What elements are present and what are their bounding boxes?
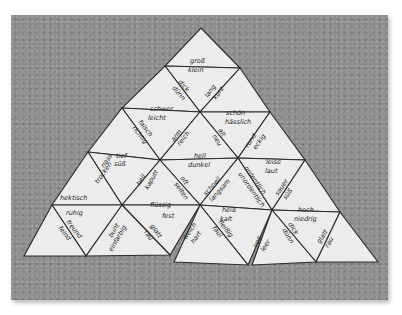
word-label: heiß xyxy=(222,206,236,214)
word-label: hässlich xyxy=(225,118,251,126)
word-label: laut xyxy=(265,167,278,175)
word-label: schön xyxy=(226,109,245,117)
word-label: flüssig xyxy=(150,201,171,209)
word-label: groß xyxy=(190,57,205,65)
word-label: hektisch xyxy=(60,194,87,202)
word-label: schwer xyxy=(150,105,174,113)
word-label: süß xyxy=(114,160,126,168)
word-label: niedrig xyxy=(294,215,317,223)
word-label: tief xyxy=(116,152,128,160)
word-label: hell xyxy=(194,152,206,160)
word-label: hoch xyxy=(298,206,314,214)
word-label: leise xyxy=(266,158,281,166)
word-label: ruhig xyxy=(66,209,83,217)
word-label: klein xyxy=(188,66,204,74)
triangle-pyramid-puzzle: groß klein dick dünn lang kurz schwer le… xyxy=(0,0,402,315)
word-label: fest xyxy=(162,212,175,220)
word-label: leicht xyxy=(148,114,166,122)
word-label: dunkel xyxy=(188,161,210,169)
